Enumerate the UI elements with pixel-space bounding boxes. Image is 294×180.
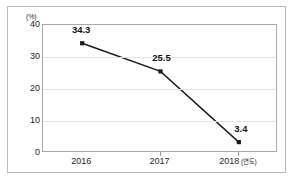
y-axis-tick-label: 20 bbox=[2, 83, 40, 93]
y-axis-tick-label: 0 bbox=[2, 147, 40, 157]
x-axis-unit-label: (연도) bbox=[239, 158, 256, 165]
data-point-marker bbox=[80, 41, 84, 45]
data-point-label: 3.4 bbox=[234, 123, 247, 134]
y-axis-tick-labels: 403020100 bbox=[0, 24, 40, 152]
gridline bbox=[43, 89, 276, 90]
y-axis-tick-label: 40 bbox=[2, 19, 40, 29]
x-axis-tick-labels: 201620172018 (연도) bbox=[42, 156, 277, 172]
line-chart-figure: (%) 403020100 201620172018 (연도) 34.325.5… bbox=[0, 0, 294, 180]
x-axis-tick-label: 2017 bbox=[149, 156, 169, 166]
data-point-label: 25.5 bbox=[152, 52, 171, 63]
x-axis-tick-mark bbox=[160, 152, 161, 156]
data-point-label: 34.3 bbox=[72, 24, 91, 35]
gridline bbox=[43, 121, 276, 122]
y-axis-tick-label: 10 bbox=[2, 115, 40, 125]
x-axis-tick-mark bbox=[238, 152, 239, 156]
y-axis-tick-label: 30 bbox=[2, 51, 40, 61]
x-axis-tick-label: 2018 (연도) bbox=[219, 156, 256, 166]
data-point-marker bbox=[158, 69, 162, 73]
data-point-marker bbox=[237, 140, 241, 144]
x-axis-tick-label: 2016 bbox=[71, 156, 91, 166]
